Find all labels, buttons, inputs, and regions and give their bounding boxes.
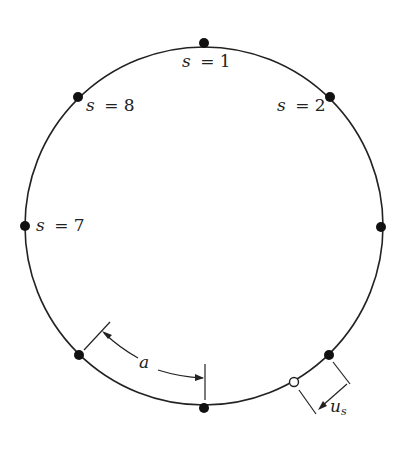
node-s1	[199, 38, 209, 48]
ext-line-open	[299, 390, 316, 414]
node-s7	[20, 221, 30, 231]
node-s5	[199, 403, 209, 413]
label-s1: s = 1	[182, 51, 231, 71]
label-s2: s = 2	[277, 95, 326, 115]
label-s8: s = 8	[86, 95, 135, 115]
spacing-label-a: a	[139, 352, 149, 372]
circular-node-diagram: s = 1 s = 8 s = 2 s = 7 a us	[0, 0, 404, 452]
node-s2	[325, 92, 335, 102]
node-s3	[376, 222, 386, 232]
node-s8	[73, 92, 83, 102]
arrowhead-left-icon	[102, 331, 112, 339]
displacement-label-u: us	[330, 396, 347, 418]
ext-line-node	[333, 362, 350, 384]
node-s6	[74, 350, 84, 360]
label-s7: s = 7	[36, 215, 85, 235]
arrowhead-right-icon	[195, 374, 204, 381]
node-s4	[324, 350, 334, 360]
displaced-node-open	[290, 378, 299, 387]
